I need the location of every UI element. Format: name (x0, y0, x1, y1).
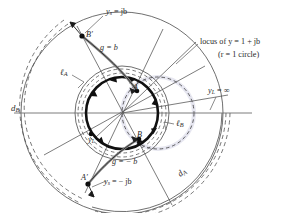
d-b-dashed-arcs (20, 20, 83, 203)
label-point-a: A (133, 84, 138, 92)
label-locus-line1: locus of y = 1 + jb (200, 38, 260, 46)
smith-chart-drawing (0, 0, 292, 213)
label-yl-infinity: yL = ∞ (208, 87, 229, 96)
radial-construction-lines (44, 26, 228, 205)
label-ys-plus-jb: ys = jb (106, 8, 127, 17)
label-g-equals-minus-b: g = − b (112, 158, 137, 166)
label-point-b: B (137, 131, 142, 139)
label-ell-a: ℓA (60, 68, 68, 78)
label-yl: yL (88, 136, 95, 145)
label-g-equals-b: g = b (100, 44, 118, 52)
figure-canvas: ys = jb g = b g = − b ys = − jb locus of… (0, 0, 292, 213)
label-locus-line2: (r = 1 circle) (218, 51, 259, 59)
label-d-b: dB (11, 104, 19, 114)
label-point-a-prime: A′ (81, 174, 88, 182)
label-point-b-prime: B′ (86, 31, 93, 39)
label-ell-b: ℓB (176, 119, 184, 129)
label-ys-minus-jb: ys = − jb (104, 178, 132, 187)
annotation-leaders (72, 16, 216, 187)
